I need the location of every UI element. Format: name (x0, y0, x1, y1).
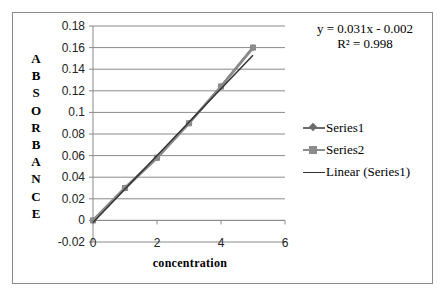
y-axis-label-letter: B (28, 136, 44, 153)
equation-text: y = 0.031x - 0.002 (300, 21, 430, 36)
y-axis-label-letter: S (28, 84, 44, 101)
y-axis-label-letter: A (28, 153, 44, 170)
y-tick-label: 0.08 (62, 127, 86, 141)
y-tick-label: 0.14 (62, 62, 86, 76)
y-axis-label-letter: E (28, 205, 44, 222)
y-tick-label: 0.18 (62, 19, 86, 33)
y-tick-label: 0.16 (62, 41, 86, 55)
trendline (93, 55, 253, 222)
x-tick-label: 4 (218, 236, 225, 250)
y-tick-label: 0.02 (62, 192, 86, 206)
legend-label: Series1 (326, 120, 364, 136)
r-squared-text: R² = 0.998 (300, 36, 430, 51)
y-tick-label: 0.12 (62, 84, 86, 98)
x-tick-label: 6 (282, 236, 289, 250)
y-axis-label-letter: R (28, 119, 44, 136)
y-tick-label: 0.06 (62, 149, 86, 163)
legend-item-linear: Linear (Series1) (303, 161, 410, 183)
legend-item-series2: Series2 (303, 139, 410, 161)
y-axis-label: ABSORBANCE (28, 50, 44, 222)
x-tick-label: 2 (154, 236, 161, 250)
square-marker-icon (250, 45, 256, 51)
y-axis-label-letter: C (28, 188, 44, 205)
square-marker-icon (303, 145, 325, 155)
x-tick-label: 0 (90, 236, 97, 250)
legend-item-series1: Series1 (303, 117, 410, 139)
trendline-equation: y = 0.031x - 0.002 R² = 0.998 (300, 21, 430, 51)
x-axis-label: concentration (140, 256, 240, 271)
diamond-marker-icon (303, 123, 325, 133)
legend-label: Series2 (326, 142, 364, 158)
line-icon (303, 167, 325, 177)
y-axis-label-letter: B (28, 67, 44, 84)
y-tick-label: 0.04 (62, 170, 86, 184)
y-axis-label-letter: O (28, 102, 44, 119)
y-tick-label: 0 (78, 213, 85, 227)
y-tick-label: -0.02 (58, 235, 86, 249)
legend-label: Linear (Series1) (326, 164, 410, 180)
y-tick-label: 0.1 (68, 105, 85, 119)
y-axis-label-letter: N (28, 170, 44, 187)
legend: Series1 Series2 Linear (Series1) (303, 117, 410, 183)
y-axis-label-letter: A (28, 50, 44, 67)
